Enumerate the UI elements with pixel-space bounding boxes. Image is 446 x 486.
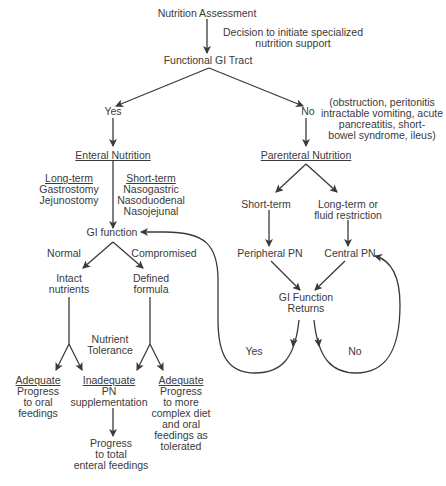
decision-note: Decision to initiate specialized nutriti…	[223, 27, 363, 49]
arrow-to-no	[209, 68, 303, 106]
node-peripheral-pn: Peripheral PN	[237, 248, 302, 259]
node-parenteral-nutrition: Parenteral Nutrition	[261, 150, 351, 161]
arrow-intact-to-adequate	[56, 344, 69, 370]
loop-label-yes: Yes	[245, 346, 262, 357]
node-enteral-nutrition: Enteral Nutrition	[75, 150, 150, 161]
branch-compromised: Compromised	[131, 248, 196, 259]
node-central-pn: Central PN	[324, 248, 375, 259]
nutrition-support-flowchart: Nutrition Assessment Decision to initiat…	[0, 0, 446, 486]
arrow-to-intact	[83, 242, 113, 268]
no-reasons-note: (obstruction, peritonitis intractable vo…	[321, 97, 443, 141]
node-nutrition-assessment: Nutrition Assessment	[158, 8, 257, 19]
node-defined-formula: Defined formula	[133, 273, 169, 295]
node-progress-total-enteral: Progress to total enteral feedings	[74, 438, 149, 471]
node-pn-short-term: Short-term	[241, 199, 291, 210]
arrow-to-yes	[116, 68, 209, 106]
node-inadequate-pn: Inadequate PN supplementation	[70, 375, 147, 408]
node-functional-gi-tract: Functional GI Tract	[164, 55, 253, 66]
node-gi-function-returns: GI Function Returns	[279, 292, 333, 314]
branch-normal: Normal	[47, 248, 81, 259]
arrow-peripheral-to-returns	[271, 261, 300, 290]
flowchart-connectors	[0, 0, 446, 486]
enteral-long-term: Long-term Gastrostomy Jejunostomy	[39, 173, 99, 206]
node-gi-function: GI function	[87, 227, 138, 238]
arrow-central-to-returns	[315, 261, 345, 290]
arrow-to-pn-short	[276, 164, 306, 192]
loop-no-arrowhead	[318, 338, 319, 346]
node-adequate-oral: Adequate Progress to oral feedings	[16, 375, 61, 419]
node-adequate-complex-diet: Adequate Progress to more complex diet a…	[152, 375, 211, 452]
enteral-short-term: Short-term Nasogastric Nasoduodenal Naso…	[117, 173, 185, 217]
nutrient-tolerance-label: Nutrient Tolerance	[87, 334, 133, 356]
arrow-defined-to-inadequate	[137, 344, 150, 370]
node-pn-long-term: Long-term or fluid restriction	[314, 199, 382, 221]
node-intact-nutrients: Intact nutrients	[49, 273, 89, 295]
arrow-intact-to-inadequate	[69, 344, 82, 370]
loop-label-no: No	[348, 346, 361, 357]
arrow-to-pn-long	[306, 164, 337, 192]
branch-yes: Yes	[104, 106, 121, 117]
branch-no: No	[301, 106, 314, 117]
arrow-defined-to-adequate	[150, 344, 163, 370]
